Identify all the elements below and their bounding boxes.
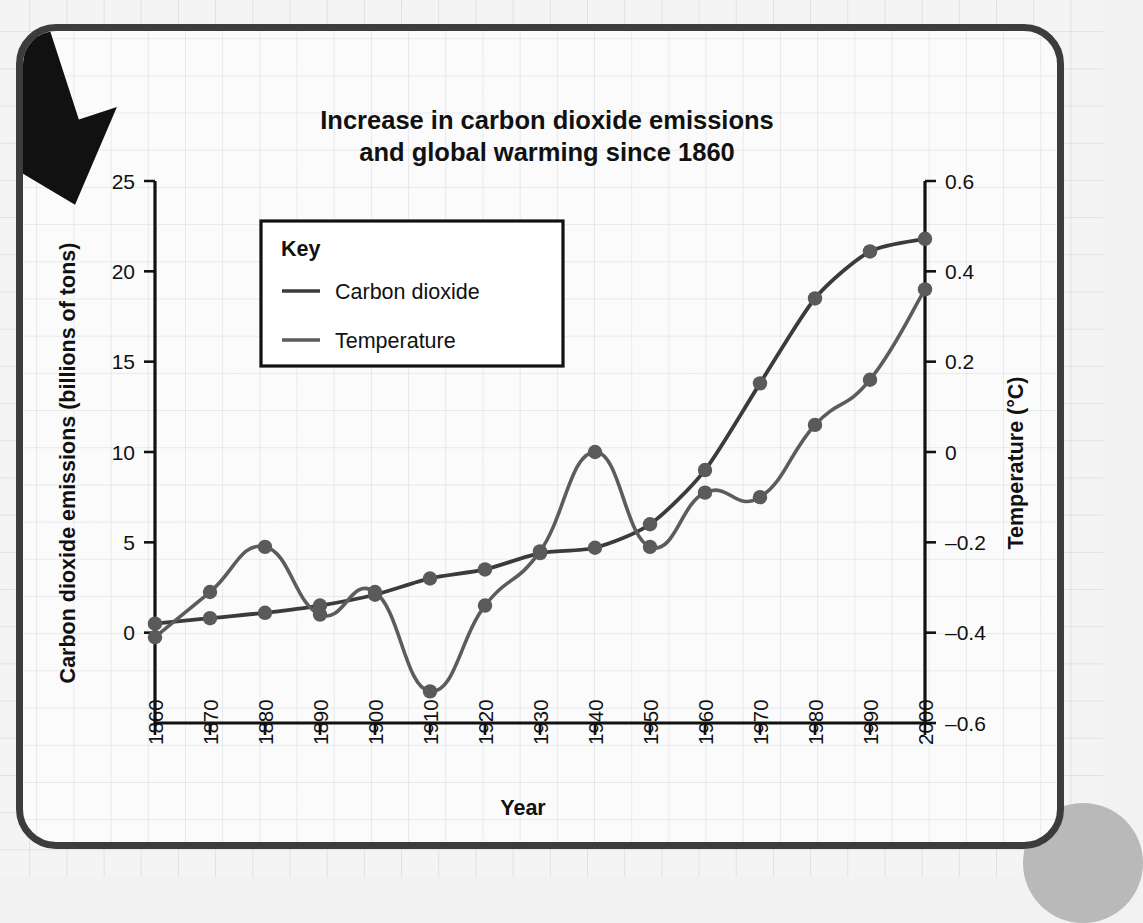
data-point-marker xyxy=(258,606,272,620)
chart-title-line1: Increase in carbon dioxide emissions xyxy=(320,106,774,134)
y-right-tick-label: 0.4 xyxy=(945,260,975,283)
x-tick-label: 1870 xyxy=(199,699,222,745)
x-tick-label: 1910 xyxy=(419,699,442,745)
y-left-tick-label: 10 xyxy=(112,441,135,464)
x-tick-label: 1990 xyxy=(859,699,882,745)
y-right-tick-label: –0.4 xyxy=(945,621,986,644)
y-right-tick-label: –0.6 xyxy=(945,712,986,735)
data-point-marker xyxy=(423,684,437,698)
data-point-marker xyxy=(588,541,602,555)
data-point-marker xyxy=(203,611,217,625)
y-axis-left-label: Carbon dioxide emissions (billions of to… xyxy=(56,243,80,684)
data-point-marker xyxy=(643,540,657,554)
x-tick-label: 1920 xyxy=(474,699,497,745)
data-point-marker xyxy=(863,244,877,258)
x-tick-label: 1930 xyxy=(529,699,552,745)
figure-card: Increase in carbon dioxide emissions and… xyxy=(16,24,1064,849)
data-point-marker xyxy=(588,445,602,459)
x-tick-label: 1940 xyxy=(584,699,607,745)
y-right-tick-label: 0.2 xyxy=(945,350,974,373)
y-left-tick-label: 20 xyxy=(112,260,135,283)
chart-title-line2: and global warming since 1860 xyxy=(359,138,735,166)
x-tick-label: 1890 xyxy=(309,699,332,745)
data-point-marker xyxy=(148,616,162,630)
y-axis-left-ticks: 0510152025 xyxy=(112,170,155,645)
x-axis-label: Year xyxy=(500,796,546,820)
legend-label-carbon-dioxide: Carbon dioxide xyxy=(335,280,480,304)
data-point-marker xyxy=(478,562,492,576)
data-point-marker xyxy=(753,490,767,504)
data-point-marker xyxy=(918,232,932,246)
data-point-marker xyxy=(698,485,712,499)
x-tick-label: 1970 xyxy=(749,699,772,745)
y-left-tick-label: 25 xyxy=(112,170,135,193)
data-point-marker xyxy=(863,373,877,387)
legend-label-temperature: Temperature xyxy=(335,329,456,353)
y-right-tick-label: 0 xyxy=(945,441,957,464)
legend-key-box: Key Carbon dioxide Temperature xyxy=(261,221,563,366)
x-axis-ticks: 1860187018801890190019101920193019401950… xyxy=(144,699,937,745)
data-point-marker xyxy=(148,630,162,644)
data-point-marker xyxy=(808,418,822,432)
chart-canvas: Increase in carbon dioxide emissions and… xyxy=(23,31,1064,849)
data-point-marker xyxy=(478,598,492,612)
data-point-marker xyxy=(258,540,272,554)
data-point-marker xyxy=(698,463,712,477)
data-point-marker xyxy=(643,517,657,531)
data-point-marker xyxy=(918,282,932,296)
y-left-tick-label: 15 xyxy=(112,350,135,373)
x-tick-label: 1880 xyxy=(254,699,277,745)
data-point-marker xyxy=(203,585,217,599)
x-tick-label: 1980 xyxy=(804,699,827,745)
x-tick-label: 1950 xyxy=(639,699,662,745)
x-tick-label: 1860 xyxy=(144,699,167,745)
data-point-marker xyxy=(368,585,382,599)
y-right-tick-label: 0.6 xyxy=(945,170,974,193)
y-axis-right-ticks: –0.6–0.4–0.200.20.40.6 xyxy=(925,170,986,735)
x-tick-label: 2000 xyxy=(914,699,937,745)
y-left-tick-label: 0 xyxy=(123,621,135,644)
y-left-tick-label: 5 xyxy=(123,531,135,554)
data-point-marker xyxy=(753,376,767,390)
data-point-marker xyxy=(313,607,327,621)
y-right-tick-label: –0.2 xyxy=(945,531,986,554)
y-axis-right-label: Temperature (°C) xyxy=(1004,376,1028,549)
data-point-marker xyxy=(533,544,547,558)
x-tick-label: 1960 xyxy=(694,699,717,745)
legend-title: Key xyxy=(281,237,320,261)
x-tick-label: 1900 xyxy=(364,699,387,745)
data-point-marker xyxy=(423,571,437,585)
data-point-marker xyxy=(808,291,822,305)
